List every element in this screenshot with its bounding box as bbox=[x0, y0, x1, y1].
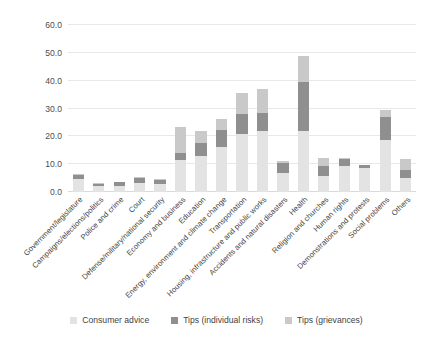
bar-segment[interactable] bbox=[175, 127, 186, 153]
bar-segment[interactable] bbox=[195, 131, 206, 144]
bar-segment[interactable] bbox=[339, 159, 350, 166]
bar-slot bbox=[109, 25, 129, 192]
bar-slot bbox=[355, 25, 375, 192]
bar-stack[interactable] bbox=[134, 177, 145, 192]
bar-slot bbox=[88, 25, 108, 192]
legend-item[interactable]: Tips (individual risks) bbox=[171, 315, 263, 325]
bar-segment[interactable] bbox=[380, 140, 391, 192]
bar-segment[interactable] bbox=[114, 186, 125, 192]
bar-segment[interactable] bbox=[73, 179, 84, 192]
bar-segment[interactable] bbox=[400, 159, 411, 170]
bar-segment[interactable] bbox=[359, 168, 370, 192]
bar-series-group bbox=[68, 25, 416, 192]
y-axis-tick-label: 50.0 bbox=[45, 48, 62, 58]
y-axis-tick-label: 20.0 bbox=[45, 131, 62, 141]
y-axis-tick-label: 0.0 bbox=[50, 187, 62, 197]
bar-stack[interactable] bbox=[216, 119, 227, 192]
legend-swatch-icon bbox=[70, 317, 77, 324]
y-axis: 0.010.020.030.040.050.060.0 bbox=[0, 25, 62, 192]
bar-stack[interactable] bbox=[359, 165, 370, 192]
bar-segment[interactable] bbox=[236, 114, 247, 135]
legend-label: Tips (grievances) bbox=[297, 315, 363, 325]
legend-swatch-icon bbox=[285, 317, 292, 324]
plot-area bbox=[68, 25, 416, 192]
bar-segment[interactable] bbox=[195, 156, 206, 192]
bar-stack[interactable] bbox=[318, 158, 329, 192]
bar-slot bbox=[396, 25, 416, 192]
bar-segment[interactable] bbox=[93, 186, 104, 192]
bar-segment[interactable] bbox=[216, 147, 227, 192]
bar-stack[interactable] bbox=[400, 159, 411, 192]
bar-segment[interactable] bbox=[277, 163, 288, 172]
bar-stack[interactable] bbox=[236, 93, 247, 192]
bar-segment[interactable] bbox=[216, 119, 227, 130]
bar-segment[interactable] bbox=[318, 176, 329, 192]
legend-item[interactable]: Tips (grievances) bbox=[285, 315, 363, 325]
bar-slot bbox=[68, 25, 88, 192]
bar-slot bbox=[375, 25, 395, 192]
bar-stack[interactable] bbox=[298, 56, 309, 192]
bar-stack[interactable] bbox=[277, 161, 288, 192]
legend-label: Consumer advice bbox=[82, 315, 149, 325]
bar-stack[interactable] bbox=[154, 179, 165, 192]
bar-slot bbox=[273, 25, 293, 192]
bar-stack[interactable] bbox=[73, 174, 84, 192]
bar-slot bbox=[211, 25, 231, 192]
bar-slot bbox=[334, 25, 354, 192]
bar-stack[interactable] bbox=[195, 131, 206, 192]
bar-segment[interactable] bbox=[175, 160, 186, 192]
y-axis-tick-label: 30.0 bbox=[45, 104, 62, 114]
bar-slot bbox=[150, 25, 170, 192]
bar-segment[interactable] bbox=[195, 143, 206, 156]
bar-segment[interactable] bbox=[400, 178, 411, 192]
bar-stack[interactable] bbox=[114, 182, 125, 192]
bar-segment[interactable] bbox=[134, 183, 145, 192]
bar-segment[interactable] bbox=[318, 158, 329, 166]
bar-segment[interactable] bbox=[257, 89, 268, 113]
stacked-bar-chart: 0.010.020.030.040.050.060.0 Government/l… bbox=[0, 0, 433, 348]
bar-segment[interactable] bbox=[380, 117, 391, 140]
bar-segment[interactable] bbox=[236, 93, 247, 114]
bar-slot bbox=[252, 25, 272, 192]
chart-legend: Consumer adviceTips (individual risks)Ti… bbox=[0, 315, 433, 325]
bar-segment[interactable] bbox=[257, 113, 268, 131]
x-axis-category-labels: Government/legislatureCampaigns/election… bbox=[68, 193, 416, 303]
bar-segment[interactable] bbox=[277, 173, 288, 192]
legend-item[interactable]: Consumer advice bbox=[70, 315, 149, 325]
y-axis-tick-label: 40.0 bbox=[45, 76, 62, 86]
bar-stack[interactable] bbox=[175, 127, 186, 192]
bar-segment[interactable] bbox=[216, 130, 227, 146]
bar-stack[interactable] bbox=[339, 158, 350, 192]
legend-swatch-icon bbox=[171, 317, 178, 324]
bar-segment[interactable] bbox=[318, 166, 329, 175]
bar-segment[interactable] bbox=[154, 184, 165, 192]
bar-segment[interactable] bbox=[400, 170, 411, 178]
bar-segment[interactable] bbox=[298, 82, 309, 132]
bar-slot bbox=[314, 25, 334, 192]
x-axis-category-label: Others bbox=[389, 195, 412, 218]
bar-stack[interactable] bbox=[380, 110, 391, 192]
bar-slot bbox=[129, 25, 149, 192]
legend-label: Tips (individual risks) bbox=[183, 315, 263, 325]
bar-stack[interactable] bbox=[257, 89, 268, 192]
bar-segment[interactable] bbox=[236, 134, 247, 192]
y-axis-tick-label: 60.0 bbox=[45, 20, 62, 30]
bar-slot bbox=[232, 25, 252, 192]
bar-segment[interactable] bbox=[257, 131, 268, 192]
bar-slot bbox=[170, 25, 190, 192]
bar-segment[interactable] bbox=[339, 166, 350, 192]
y-axis-tick-label: 10.0 bbox=[45, 159, 62, 169]
bar-segment[interactable] bbox=[298, 56, 309, 82]
bar-stack[interactable] bbox=[93, 183, 104, 192]
bar-segment[interactable] bbox=[298, 131, 309, 192]
bar-slot bbox=[293, 25, 313, 192]
bar-segment[interactable] bbox=[380, 110, 391, 117]
bar-slot bbox=[191, 25, 211, 192]
